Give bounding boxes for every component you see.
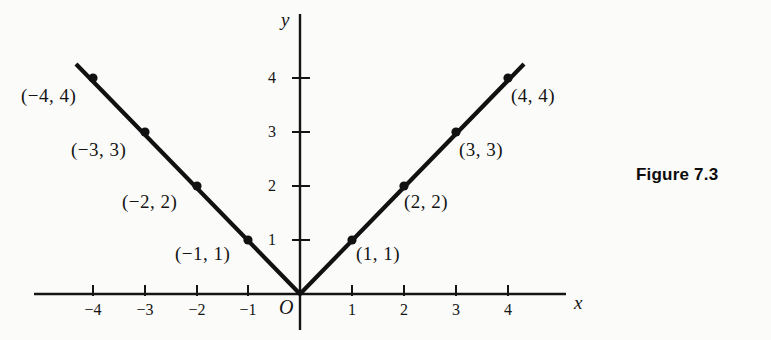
- data-point: [503, 73, 512, 82]
- data-point: [399, 181, 408, 190]
- y-tick-label-2: 2: [261, 178, 283, 194]
- point-label-neg1-1: (−1, 1): [175, 244, 230, 263]
- point-label-neg4-4: (−4, 4): [21, 86, 76, 105]
- figure-caption: Figure 7.3: [636, 165, 718, 185]
- y-axis-label: y: [281, 10, 289, 29]
- point-label-neg2-2: (−2, 2): [122, 192, 177, 211]
- x-axis-label: x: [574, 293, 582, 312]
- point-label-3-3: (3, 3): [459, 140, 503, 159]
- data-point: [88, 73, 97, 82]
- x-tick-label-neg2: −2: [183, 302, 211, 318]
- y-tick-label-4: 4: [261, 70, 283, 86]
- y-tick-label-3: 3: [261, 124, 283, 140]
- x-tick-label-1: 1: [338, 302, 366, 318]
- point-label-1-1: (1, 1): [356, 244, 400, 263]
- origin-label: O: [279, 297, 293, 317]
- x-tick-label-2: 2: [390, 302, 418, 318]
- point-label-2-2: (2, 2): [404, 192, 448, 211]
- x-tick-label-4: 4: [494, 302, 522, 318]
- point-label-4-4: (4, 4): [511, 86, 555, 105]
- x-tick-label-neg1: −1: [234, 302, 262, 318]
- coordinate-plot: [0, 0, 610, 340]
- figure-panel: y x O −4 −3 −2 −1 1 2 3 4 1 2 3 4 (−4, 4…: [0, 0, 771, 340]
- y-tick-label-1: 1: [261, 232, 283, 248]
- x-tick-label-neg3: −3: [131, 302, 159, 318]
- data-point: [192, 181, 201, 190]
- data-point: [451, 127, 460, 136]
- x-tick-label-neg4: −4: [79, 302, 107, 318]
- x-tick-label-3: 3: [442, 302, 470, 318]
- data-point: [140, 127, 149, 136]
- data-point: [243, 235, 252, 244]
- point-label-neg3-3: (−3, 3): [71, 140, 126, 159]
